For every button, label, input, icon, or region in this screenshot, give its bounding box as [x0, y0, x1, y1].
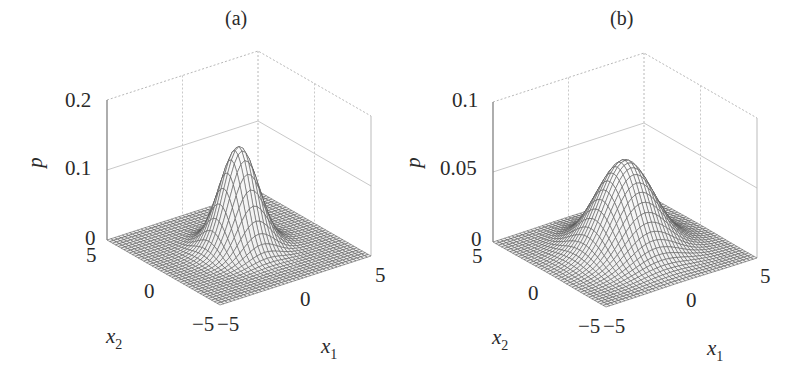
panel-a-x1-tick-5: 5: [375, 265, 386, 286]
panel-a-x1-tick-0: 0: [300, 289, 311, 310]
panel-b-x2-axis-label: x2: [492, 327, 508, 348]
panel-b-z-tick-mid: 0.05: [440, 158, 477, 179]
panel-b-x2-tick-neg5: −5: [578, 316, 600, 337]
panel-a-x1-axis-label: x1: [321, 336, 337, 357]
panel-a-title: (a): [225, 8, 247, 28]
panel-a-x2-tick-0: 0: [144, 281, 155, 302]
panel-b-z-axis-label: p: [403, 157, 424, 168]
panel-b-x1-tick-neg5: −5: [603, 316, 625, 337]
panel-b-x2-tick-5: 5: [472, 246, 483, 267]
panel-a-z-tick-max: 0.2: [65, 90, 91, 111]
panel-a-x2-tick-neg5: −5: [192, 314, 214, 335]
panel-b-x1-axis-label: x1: [707, 338, 723, 359]
panel-a-x2-axis-label: x2: [106, 326, 122, 347]
panel-b-x1-tick-5: 5: [760, 266, 771, 287]
figure-canvas: [0, 0, 805, 374]
panel-b-z-tick-max: 0.1: [452, 90, 478, 111]
panel-b-x2-tick-0: 0: [528, 283, 539, 304]
panel-a-x2-tick-5: 5: [86, 245, 97, 266]
panel-b-surface-plot: [493, 53, 757, 307]
panel-a-x1-tick-neg5: −5: [217, 314, 239, 335]
panel-b-x1-tick-0: 0: [686, 290, 697, 311]
panel-a-z-axis-label: p: [25, 157, 46, 168]
panel-a-z-tick-mid: 0.1: [65, 158, 91, 179]
panel-b-title: (b): [610, 8, 633, 28]
panel-a-surface-plot: [107, 51, 371, 305]
